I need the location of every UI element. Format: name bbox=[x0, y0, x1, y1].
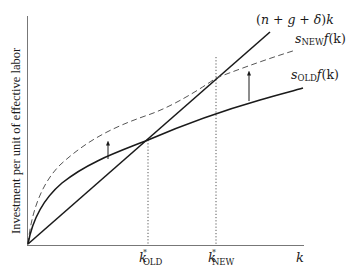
s-new-label: sNEWf(k) bbox=[295, 31, 346, 47]
s-old-curve bbox=[28, 88, 303, 244]
s-new-curve bbox=[28, 50, 296, 244]
x-axis-label: k bbox=[296, 250, 304, 265]
k-old-label: k*OLD bbox=[139, 248, 163, 267]
k-new-label: k*NEW bbox=[208, 248, 235, 267]
solow-diagram: (n + g + δ)k sNEWf(k) sOLDf(k) k*OLD k*N… bbox=[0, 0, 347, 273]
y-axis-label: Investment per unit of effective labor bbox=[9, 47, 23, 234]
s-old-label: sOLDf(k) bbox=[291, 67, 339, 83]
break-even-line bbox=[28, 32, 270, 244]
break-even-label: (n + g + δ)k bbox=[256, 12, 334, 27]
